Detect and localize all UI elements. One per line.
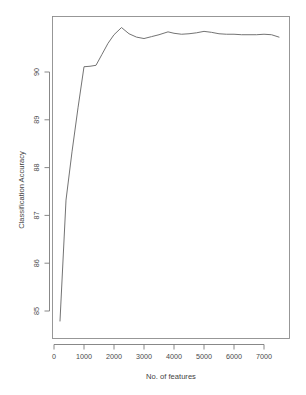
data-series-line (60, 28, 279, 321)
y-tick-labels: 90 89 88 87 86 85 (32, 68, 41, 315)
x-axis-title: No. of features (146, 372, 196, 381)
x-axis: 0 1000 2000 3000 4000 5000 6000 7000 No.… (52, 345, 272, 382)
x-tick-marks (54, 345, 264, 350)
x-tick-label: 6000 (226, 352, 242, 361)
y-tick-label: 85 (32, 307, 41, 315)
x-tick-label: 3000 (136, 352, 152, 361)
y-tick-label: 87 (32, 211, 41, 219)
plot-frame (53, 17, 290, 339)
x-tick-label: 7000 (256, 352, 272, 361)
y-axis-title: Classification Accuracy (17, 151, 26, 229)
x-tick-label: 1000 (76, 352, 92, 361)
y-tick-label: 88 (32, 164, 41, 172)
x-tick-labels: 0 1000 2000 3000 4000 5000 6000 7000 (52, 352, 272, 361)
x-tick-label: 2000 (106, 352, 122, 361)
figure-container: 90 89 88 87 86 85 Classification Accurac… (0, 0, 306, 395)
y-tick-label: 90 (32, 68, 41, 76)
y-tick-label: 86 (32, 259, 41, 267)
line-chart: 90 89 88 87 86 85 Classification Accurac… (0, 0, 306, 395)
x-tick-label: 5000 (196, 352, 212, 361)
x-tick-label: 0 (52, 352, 56, 361)
y-axis: 90 89 88 87 86 85 Classification Accurac… (17, 68, 50, 315)
y-tick-label: 89 (32, 116, 41, 124)
x-tick-label: 4000 (166, 352, 182, 361)
y-tick-marks (45, 72, 50, 311)
